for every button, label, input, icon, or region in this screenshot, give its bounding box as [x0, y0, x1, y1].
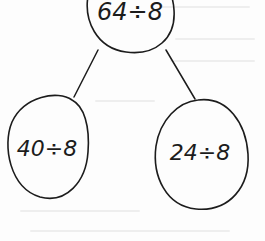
- whole-label: 64÷8: [97, 0, 163, 26]
- connector-left: [74, 50, 98, 97]
- part-label-right: 24÷8: [170, 140, 230, 165]
- connector-right: [166, 50, 195, 99]
- number-bond-diagram: [0, 0, 265, 241]
- part-label-left: 40÷8: [17, 136, 77, 161]
- diagram-canvas: 64÷8 40÷8 24÷8: [0, 0, 265, 241]
